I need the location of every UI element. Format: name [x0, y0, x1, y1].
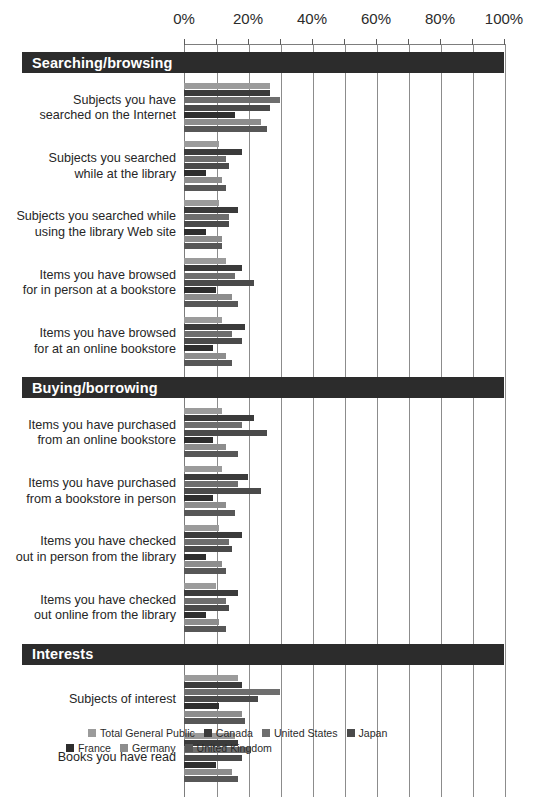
bar [184, 149, 242, 155]
category-label-line: from an online bookstore [0, 433, 176, 449]
bar [184, 408, 222, 414]
legend-item[interactable]: United Kingdom [185, 742, 272, 754]
x-axis-tick-label: 40% [297, 10, 327, 27]
x-axis-tick-label: 20% [233, 10, 263, 27]
legend-label: Total General Public [100, 727, 195, 739]
bar [184, 481, 238, 487]
bar [184, 546, 232, 552]
legend-item[interactable]: Germany [120, 742, 176, 754]
category-label-line: Items you have purchased [0, 476, 176, 492]
category-label-line: searched on the Internet [0, 108, 176, 124]
legend-item[interactable]: Japan [347, 727, 388, 739]
bar [184, 583, 216, 589]
x-axis-tick-label: 60% [361, 10, 391, 27]
legend-row-1: Total General PublicCanadaUnited StatesJ… [0, 727, 536, 739]
category-row: Items you have browsedfor in person at a… [0, 258, 536, 308]
bar-group [184, 200, 504, 250]
bar [184, 317, 222, 323]
legend-item[interactable]: France [66, 742, 111, 754]
bar [184, 532, 242, 538]
bar [184, 207, 238, 213]
bar [184, 568, 226, 574]
bar [184, 612, 206, 618]
bar [184, 718, 245, 724]
bar [184, 126, 267, 132]
legend-label: Canada [216, 727, 253, 739]
bar-group [184, 675, 504, 725]
category-label-line: Subjects you searched [0, 151, 176, 167]
bar [184, 294, 232, 300]
legend-item[interactable]: Canada [204, 727, 253, 739]
category-label: Subjects of interest [0, 692, 176, 708]
legend-item[interactable]: Total General Public [88, 727, 195, 739]
category-label-line: while at the library [0, 167, 176, 183]
legend-label: Germany [132, 742, 176, 754]
bar [184, 258, 226, 264]
bar [184, 696, 258, 702]
x-axis-tick-mark [504, 39, 505, 45]
section-header-label: Searching/browsing [32, 55, 172, 71]
bar [184, 324, 245, 330]
bar [184, 177, 222, 183]
category-label-line: Subjects you have [0, 93, 176, 109]
bar [184, 776, 238, 782]
bar [184, 430, 267, 436]
category-label-line: Items you have purchased [0, 418, 176, 434]
legend-swatch-icon [204, 729, 212, 737]
category-label-line: Items you have checked [0, 593, 176, 609]
x-axis-tick-mark [248, 39, 249, 45]
x-axis-tick-label: 100% [485, 10, 523, 27]
x-axis-tick-mark [344, 39, 345, 45]
bar [184, 415, 254, 421]
bar [184, 590, 238, 596]
legend-swatch-icon [185, 744, 193, 752]
bar [184, 353, 226, 359]
bar-group [184, 258, 504, 308]
x-axis-tick-mark [440, 39, 441, 45]
category-row: Items you have checkedout online from th… [0, 583, 536, 633]
bar [184, 156, 226, 162]
bar [184, 711, 242, 717]
chart-legend: Total General PublicCanadaUnited StatesJ… [0, 727, 536, 754]
bar [184, 112, 235, 118]
bar [184, 626, 226, 632]
bar [184, 437, 213, 443]
bar [184, 170, 206, 176]
category-row: Subjects of interest [0, 675, 536, 725]
category-label: Subjects you havesearched on the Interne… [0, 93, 176, 124]
category-label-line: out online from the library [0, 608, 176, 624]
category-row: Items you have purchasedfrom an online b… [0, 408, 536, 458]
legend-item[interactable]: United States [262, 727, 338, 739]
bar [184, 762, 216, 768]
category-row: Items you have browsedfor at an online b… [0, 317, 536, 367]
section-header-band: Buying/borrowing [22, 377, 504, 398]
category-label-line: for in person at a bookstore [0, 283, 176, 299]
category-label: Items you have checkedout online from th… [0, 593, 176, 624]
category-label-line: from a bookstore in person [0, 492, 176, 508]
bar [184, 422, 242, 428]
bar [184, 345, 213, 351]
category-label-line: Items you have browsed [0, 268, 176, 284]
category-label-line: Items you have checked [0, 534, 176, 550]
bar-group [184, 466, 504, 516]
x-axis-tick-mark [408, 39, 409, 45]
section-header-label: Interests [32, 646, 93, 662]
bar [184, 619, 219, 625]
bar [184, 214, 229, 220]
x-axis-tick-label: 0% [173, 10, 195, 27]
bar [184, 338, 242, 344]
category-label: Items you have checkedout in person from… [0, 534, 176, 565]
legend-row-2: FranceGermanyUnited Kingdom [0, 742, 536, 754]
bar [184, 243, 222, 249]
legend-label: Japan [359, 727, 388, 739]
category-label: Subjects you searched whileusing the lib… [0, 209, 176, 240]
category-label-line: for at an online bookstore [0, 342, 176, 358]
bar [184, 495, 213, 501]
category-row: Subjects you havesearched on the Interne… [0, 83, 536, 133]
x-axis-tick-mark [280, 39, 281, 45]
bar [184, 360, 232, 366]
category-row: Items you have checkedout in person from… [0, 525, 536, 575]
bar [184, 769, 232, 775]
legend-swatch-icon [66, 744, 74, 752]
